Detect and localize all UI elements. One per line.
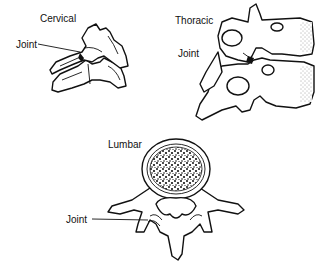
cervical-joint-label: Joint bbox=[16, 39, 37, 50]
lumbar-joint-label: Joint bbox=[66, 214, 87, 225]
cervical-vertebra-drawing bbox=[50, 24, 128, 92]
thoracic-joint-label: Joint bbox=[178, 48, 199, 59]
lumbar-vertebra-drawing bbox=[108, 139, 244, 260]
cervical-title: Cervical bbox=[40, 13, 76, 24]
vertebrae-illustration bbox=[0, 0, 325, 269]
thoracic-title: Thoracic bbox=[175, 15, 213, 26]
cervical-joint-leader-line bbox=[38, 44, 80, 52]
thoracic-vertebra-drawing bbox=[196, 4, 314, 120]
lumbar-title: Lumbar bbox=[108, 139, 142, 150]
